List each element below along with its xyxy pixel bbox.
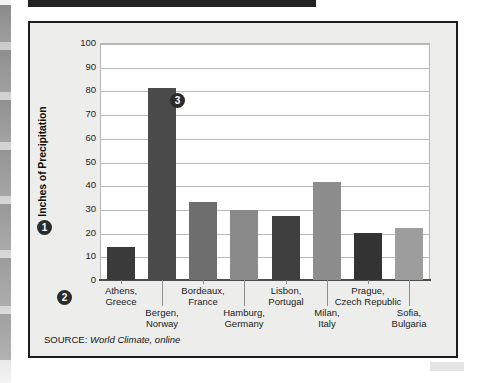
y-tick-label: 30 (34, 204, 96, 214)
x-label-france: Bordeaux,France (155, 285, 251, 307)
y-tick-label: 90 (34, 62, 96, 72)
callout-marker-2: 2 (57, 290, 72, 305)
x-axis-category-labels: Athens,GreeceBergen,NorwayBordeaux,Franc… (30, 280, 460, 360)
bar-chart: Inches of Precipitation 1009080706050403… (30, 23, 460, 360)
x-label-country: Czech Republic (320, 296, 416, 307)
x-label-city: Sofia, (361, 307, 457, 318)
x-label-germany: Hamburg,Germany (196, 307, 292, 329)
page-scan-smudge (430, 362, 464, 371)
y-tick-label: 50 (34, 157, 96, 167)
x-axis-tick (121, 280, 122, 284)
x-axis-tick (409, 280, 410, 306)
x-label-city: Bordeaux, (155, 285, 251, 296)
x-label-city: Hamburg, (196, 307, 292, 318)
source-reference: World Climate, online (90, 334, 180, 345)
bar-germany (230, 210, 258, 280)
x-label-country: Germany (196, 318, 292, 329)
source-prefix: SOURCE: (44, 334, 87, 345)
y-tick-label: 40 (34, 180, 96, 190)
page-edge-scan-artifact (0, 0, 11, 383)
y-tick-label: 80 (34, 85, 96, 95)
x-label-country: Bulgaria (361, 318, 457, 329)
y-tick-label: 70 (34, 109, 96, 119)
y-axis-tick-labels: 1009080706050403020100 (30, 43, 96, 280)
callout-marker-3: 3 (170, 93, 185, 108)
bar-norway (148, 88, 176, 280)
x-axis-tick (203, 280, 204, 284)
x-label-city: Prague, (320, 285, 416, 296)
x-label-bulgaria: Sofia,Bulgaria (361, 307, 457, 329)
bar-italy (313, 182, 341, 280)
bar-czech-republic (354, 233, 382, 280)
y-tick-label: 60 (34, 133, 96, 143)
y-tick-label: 10 (34, 251, 96, 261)
bar-bulgaria (395, 228, 423, 280)
bar-greece (107, 247, 135, 280)
x-axis-tick (368, 280, 369, 284)
figure-frame: Inches of Precipitation 1009080706050403… (28, 21, 458, 358)
x-axis-tick (286, 280, 287, 284)
bar-france (189, 202, 217, 280)
bars-layer (100, 43, 430, 280)
y-tick-label: 100 (34, 38, 96, 48)
page-top-scan-artifact (28, 0, 316, 7)
x-label-czech-republic: Prague,Czech Republic (320, 285, 416, 307)
source-note: SOURCE: World Climate, online (44, 334, 180, 345)
callout-marker-1: 1 (37, 220, 52, 235)
x-label-country: France (155, 296, 251, 307)
bar-portugal (272, 216, 300, 280)
